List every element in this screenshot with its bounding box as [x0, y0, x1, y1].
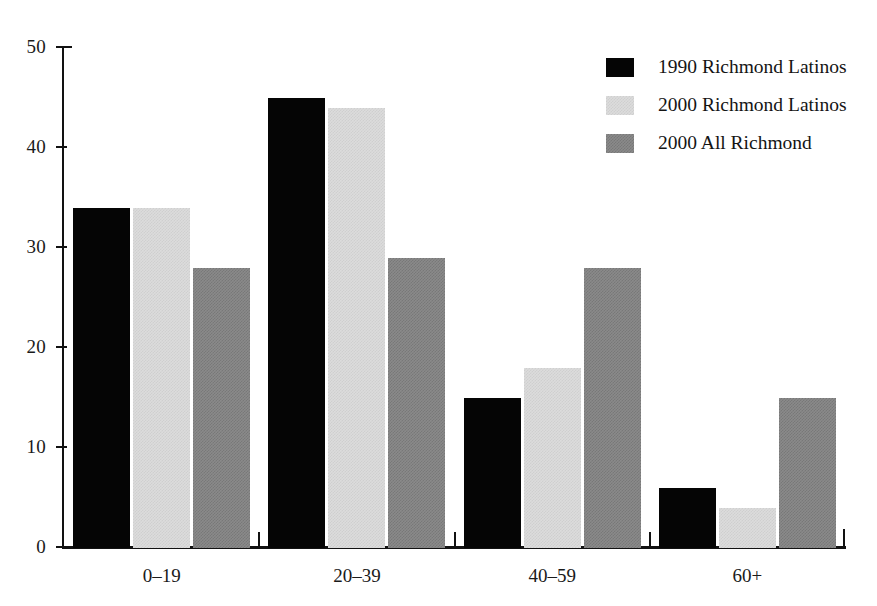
bar-chart: 01020304050 0–1920–3940–5960+ 1990 Richm… [0, 0, 877, 606]
legend-swatch-2000-richmond-latinos [606, 96, 634, 115]
bar [328, 108, 385, 548]
y-axis-tick-mark [56, 446, 67, 448]
x-axis-right-cap [843, 529, 845, 547]
y-axis-tick-mark [56, 146, 67, 148]
x-axis-tick-mark [649, 532, 651, 547]
bar [584, 268, 641, 548]
bar [133, 208, 190, 548]
bar [464, 398, 521, 548]
y-axis-tick-mark [56, 246, 67, 248]
chart-legend: 1990 Richmond Latinos 2000 Richmond Lati… [606, 48, 871, 162]
y-axis-tick-label: 0 [0, 537, 46, 556]
legend-swatch-2000-all-richmond [606, 134, 634, 153]
bar [268, 98, 325, 548]
y-axis-tick-label: 10 [0, 437, 46, 456]
x-axis-tick-label: 0–19 [64, 566, 259, 586]
y-axis-tick-label: 30 [0, 237, 46, 256]
y-axis-tick-label: 50 [0, 37, 46, 56]
y-axis-line [62, 47, 64, 548]
legend-label: 2000 All Richmond [658, 133, 812, 153]
bar [73, 208, 130, 548]
legend-item: 2000 Richmond Latinos [606, 86, 871, 124]
y-axis-tick-mark [56, 46, 67, 48]
x-axis-tick-label: 40–59 [455, 566, 650, 586]
x-axis-tick-label: 20–39 [259, 566, 454, 586]
x-axis-tick-mark [454, 532, 456, 547]
y-axis-tick-label: 40 [0, 137, 46, 156]
y-axis-tick-mark [56, 346, 67, 348]
legend-swatch-1990-richmond-latinos [606, 58, 634, 77]
x-axis-tick-label: 60+ [650, 566, 845, 586]
legend-label: 1990 Richmond Latinos [658, 57, 847, 77]
legend-item: 2000 All Richmond [606, 124, 871, 162]
bar [779, 398, 836, 548]
bar [193, 268, 250, 548]
legend-item: 1990 Richmond Latinos [606, 48, 871, 86]
bar [659, 488, 716, 548]
bar [388, 258, 445, 548]
y-axis-tick-label: 20 [0, 337, 46, 356]
legend-label: 2000 Richmond Latinos [658, 95, 847, 115]
bar [524, 368, 581, 548]
x-axis-tick-mark [258, 532, 260, 547]
bar [719, 508, 776, 548]
